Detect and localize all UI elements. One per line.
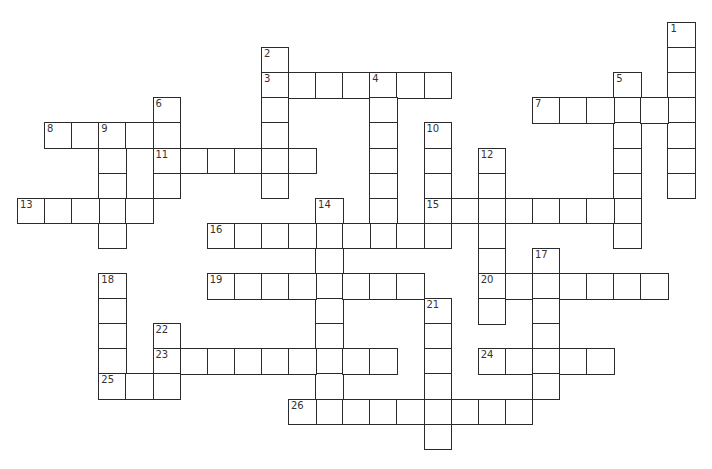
crossword-cell[interactable] <box>98 298 127 325</box>
crossword-cell[interactable] <box>288 348 317 375</box>
crossword-cell[interactable] <box>369 173 398 200</box>
crossword-cell[interactable] <box>424 148 453 175</box>
crossword-cell[interactable] <box>667 47 696 74</box>
crossword-cell[interactable] <box>613 148 642 175</box>
crossword-cell[interactable] <box>342 399 371 426</box>
crossword-cell[interactable] <box>315 273 344 300</box>
crossword-cell[interactable]: 25 <box>98 373 127 400</box>
crossword-cell[interactable] <box>261 122 290 149</box>
crossword-cell[interactable] <box>667 97 696 124</box>
crossword-cell[interactable]: 6 <box>153 97 182 124</box>
crossword-cell[interactable] <box>478 248 507 275</box>
crossword-cell[interactable] <box>613 223 642 250</box>
crossword-cell[interactable] <box>71 198 100 225</box>
crossword-cell[interactable] <box>424 348 453 375</box>
crossword-cell[interactable] <box>424 223 453 250</box>
crossword-cell[interactable] <box>369 97 398 124</box>
crossword-cell[interactable] <box>98 223 127 250</box>
crossword-cell[interactable] <box>586 273 615 300</box>
crossword-cell[interactable] <box>613 97 642 124</box>
crossword-cell[interactable]: 5 <box>613 72 642 99</box>
crossword-cell[interactable]: 10 <box>424 122 453 149</box>
crossword-cell[interactable] <box>667 173 696 200</box>
crossword-cell[interactable] <box>505 198 534 225</box>
crossword-cell[interactable]: 16 <box>207 223 236 250</box>
crossword-cell[interactable]: 1 <box>667 22 696 49</box>
crossword-cell[interactable] <box>207 348 236 375</box>
crossword-cell[interactable]: 19 <box>207 273 236 300</box>
crossword-cell[interactable] <box>424 173 453 200</box>
crossword-cell[interactable] <box>532 298 561 325</box>
crossword-cell[interactable]: 3 <box>261 72 290 99</box>
crossword-cell[interactable] <box>261 273 290 300</box>
crossword-cell[interactable]: 2 <box>261 47 290 74</box>
crossword-cell[interactable] <box>396 72 425 99</box>
crossword-cell[interactable] <box>532 273 561 300</box>
crossword-cell[interactable] <box>559 348 588 375</box>
crossword-cell[interactable] <box>71 122 100 149</box>
crossword-cell[interactable] <box>288 148 317 175</box>
crossword-cell[interactable] <box>369 348 398 375</box>
crossword-cell[interactable] <box>234 273 263 300</box>
crossword-cell[interactable] <box>153 122 182 149</box>
crossword-cell[interactable] <box>153 373 182 400</box>
crossword-cell[interactable] <box>532 198 561 225</box>
crossword-cell[interactable]: 7 <box>532 97 561 124</box>
crossword-cell[interactable] <box>342 348 371 375</box>
crossword-cell[interactable] <box>505 399 534 426</box>
crossword-cell[interactable] <box>315 223 344 250</box>
crossword-cell[interactable]: 9 <box>98 122 127 149</box>
crossword-cell[interactable] <box>586 97 615 124</box>
crossword-cell[interactable] <box>451 198 480 225</box>
crossword-cell[interactable] <box>369 223 398 250</box>
crossword-cell[interactable] <box>342 72 371 99</box>
crossword-cell[interactable] <box>315 399 344 426</box>
crossword-cell[interactable] <box>315 323 344 350</box>
crossword-cell[interactable] <box>153 173 182 200</box>
crossword-cell[interactable] <box>613 173 642 200</box>
crossword-cell[interactable] <box>315 72 344 99</box>
crossword-cell[interactable] <box>559 97 588 124</box>
crossword-cell[interactable] <box>342 273 371 300</box>
crossword-cell[interactable] <box>532 348 561 375</box>
crossword-cell[interactable] <box>261 97 290 124</box>
crossword-cell[interactable] <box>478 223 507 250</box>
crossword-cell[interactable] <box>261 173 290 200</box>
crossword-cell[interactable] <box>451 399 480 426</box>
crossword-cell[interactable]: 24 <box>478 348 507 375</box>
crossword-cell[interactable] <box>478 173 507 200</box>
crossword-cell[interactable] <box>234 348 263 375</box>
crossword-cell[interactable] <box>369 122 398 149</box>
crossword-cell[interactable]: 11 <box>153 148 182 175</box>
crossword-cell[interactable] <box>532 373 561 400</box>
crossword-cell[interactable]: 26 <box>288 399 317 426</box>
crossword-cell[interactable] <box>369 273 398 300</box>
crossword-cell[interactable] <box>505 348 534 375</box>
crossword-cell[interactable] <box>424 323 453 350</box>
crossword-cell[interactable] <box>613 122 642 149</box>
crossword-cell[interactable] <box>125 122 154 149</box>
crossword-cell[interactable] <box>234 148 263 175</box>
crossword-cell[interactable] <box>586 198 615 225</box>
crossword-cell[interactable]: 20 <box>478 273 507 300</box>
crossword-cell[interactable] <box>180 348 209 375</box>
crossword-cell[interactable] <box>369 198 398 225</box>
crossword-cell[interactable] <box>532 323 561 350</box>
crossword-cell[interactable] <box>613 273 642 300</box>
crossword-cell[interactable] <box>478 399 507 426</box>
crossword-cell[interactable] <box>505 273 534 300</box>
crossword-cell[interactable] <box>315 373 344 400</box>
crossword-cell[interactable] <box>315 298 344 325</box>
crossword-cell[interactable] <box>98 148 127 175</box>
crossword-cell[interactable] <box>207 148 236 175</box>
crossword-cell[interactable] <box>315 348 344 375</box>
crossword-cell[interactable] <box>234 223 263 250</box>
crossword-cell[interactable] <box>396 399 425 426</box>
crossword-cell[interactable] <box>396 223 425 250</box>
crossword-cell[interactable] <box>396 273 425 300</box>
crossword-cell[interactable] <box>424 72 453 99</box>
crossword-cell[interactable] <box>559 273 588 300</box>
crossword-cell[interactable] <box>586 348 615 375</box>
crossword-cell[interactable] <box>559 198 588 225</box>
crossword-cell[interactable] <box>261 348 290 375</box>
